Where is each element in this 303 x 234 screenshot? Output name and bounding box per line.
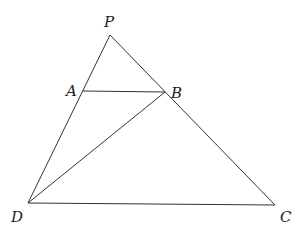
label-a: A: [64, 82, 77, 100]
label-b: B: [170, 84, 182, 102]
segment-pd: [28, 35, 110, 203]
segment-ab: [83, 91, 165, 92]
label-c: C: [280, 208, 292, 226]
segment-pc: [110, 35, 275, 205]
segment-db: [28, 92, 165, 203]
segments-group: [28, 35, 275, 205]
labels-group: P A B D C: [10, 13, 292, 226]
label-p: P: [103, 13, 115, 31]
segment-dc: [28, 203, 275, 205]
label-d: D: [10, 208, 23, 226]
geometry-diagram: P A B D C: [0, 0, 303, 234]
